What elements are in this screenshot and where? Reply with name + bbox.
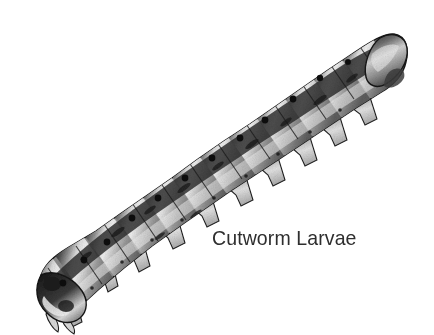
larva-segments bbox=[25, 30, 403, 335]
figure-root: Cutworm Larvae bbox=[0, 0, 434, 335]
larva-body bbox=[25, 30, 407, 335]
cutworm-larva-illustration bbox=[0, 0, 434, 335]
larva-prolegs bbox=[46, 97, 377, 334]
